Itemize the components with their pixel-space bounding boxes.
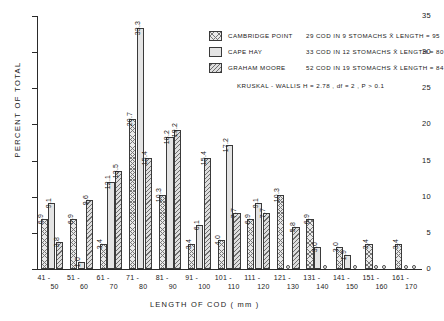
bar-value-label: 1.0 <box>74 257 81 267</box>
bar: 4.0 <box>218 240 225 269</box>
bar-value-label: 1.9 <box>340 250 347 260</box>
bar: 5.8 <box>292 227 299 269</box>
bar-value-label: 10.3 <box>155 187 162 201</box>
bar: 6.9 <box>247 219 254 269</box>
x-tick-label-high: 90 <box>169 283 195 290</box>
legend-series-name: CAMBRIDGE POINT <box>228 32 293 39</box>
bar-value-label: 6.9 <box>66 214 73 224</box>
bar-value-label: 10.3 <box>273 187 280 201</box>
bar-group: 3.412.113.5 <box>100 16 123 269</box>
bar-value-label: 7.7 <box>230 208 237 218</box>
x-tick-label-low: 51 - <box>67 274 91 281</box>
bar-value-label: 17.2 <box>222 137 229 151</box>
y-tick <box>32 16 37 17</box>
bar: 20.7 <box>129 119 136 269</box>
legend-row: CAPE HAY33 COD IN 12 STOMACHS X̄ LENGTH … <box>209 46 429 62</box>
bar-value-label: 3.4 <box>185 239 192 249</box>
y-axis-title: PERCENT OF TOTAL <box>13 68 22 158</box>
bar-value-label: 6.9 <box>37 214 44 224</box>
y-tick <box>32 233 37 234</box>
x-tick-label-high: 50 <box>51 283 77 290</box>
x-tick-label-low: 121 - <box>274 274 298 281</box>
bar-group: 6.99.13.8 <box>41 16 64 269</box>
bar-value-label: 15.4 <box>200 150 207 164</box>
y-tick <box>32 161 37 162</box>
y-tick <box>32 197 37 198</box>
x-tick-label-low: 141 - <box>333 274 357 281</box>
bar-value-label: 19.2 <box>171 123 178 137</box>
bar-value-label: 3.0 <box>332 242 339 252</box>
bar: 1.0 <box>78 262 85 269</box>
x-axis-line <box>37 269 422 270</box>
bar-value-label: 15.4 <box>141 150 148 164</box>
bar-value-label: 3.4 <box>391 239 398 249</box>
bar: 15.4 <box>145 158 152 269</box>
x-tick-label-high: 120 <box>257 283 283 290</box>
y-tick <box>32 88 37 89</box>
bar: 7.7 <box>233 213 240 269</box>
legend-series-name: GRAHAM MOORE <box>228 64 286 71</box>
bar-value-label: 4.0 <box>214 235 221 245</box>
bar: 3.4 <box>395 244 402 269</box>
y-tick <box>32 52 37 53</box>
bar-value-label: 9.6 <box>82 194 89 204</box>
bar-value-label: 9.1 <box>45 198 52 208</box>
bar: 3.4 <box>365 244 372 269</box>
legend: CAMBRIDGE POINT29 COD IN 9 STOMACHS X̄ L… <box>209 30 429 78</box>
x-tick-label-high: 70 <box>110 283 136 290</box>
x-tick-label-high: 80 <box>139 283 165 290</box>
zero-value-marker <box>286 265 290 269</box>
x-tick-label-low: 131 - <box>303 274 327 281</box>
bar-value-label: 18.2 <box>163 130 170 144</box>
x-axis-title: LENGTH OF COD ( mm ) <box>150 300 259 309</box>
legend-swatch <box>209 31 222 41</box>
y-tick <box>32 124 37 125</box>
x-tick-label-low: 151 - <box>362 274 386 281</box>
bar: 3.4 <box>100 244 107 269</box>
x-tick-label-high: 110 <box>228 283 254 290</box>
x-tick-label-high: 170 <box>405 283 431 290</box>
bar: 33.3 <box>137 28 144 269</box>
legend-swatch <box>209 47 222 57</box>
bar-value-label: 7.7 <box>259 208 266 218</box>
x-tick-label-low: 41 - <box>38 274 62 281</box>
x-tick-label-low: 161 - <box>392 274 416 281</box>
bar-value-label: 12.1 <box>104 174 111 188</box>
zero-value-marker <box>412 265 416 269</box>
bar-group: 20.733.315.4 <box>129 16 152 269</box>
bar: 3.4 <box>188 244 195 269</box>
bar: 1.9 <box>344 255 351 269</box>
legend-rows: CAMBRIDGE POINT29 COD IN 9 STOMACHS X̄ L… <box>209 30 429 78</box>
bar-group: 10.318.219.2 <box>159 16 182 269</box>
y-tick <box>32 269 37 270</box>
x-tick-label-high: 160 <box>375 283 401 290</box>
zero-value-marker <box>323 265 327 269</box>
bar-value-label: 9.1 <box>251 198 258 208</box>
bar: 6.1 <box>196 225 203 269</box>
legend-row: CAMBRIDGE POINT29 COD IN 9 STOMACHS X̄ L… <box>209 30 429 46</box>
bar: 6.9 <box>41 219 48 269</box>
bar-value-label: 33.3 <box>133 21 140 35</box>
zero-value-marker <box>382 265 386 269</box>
bar-value-label: 6.9 <box>303 214 310 224</box>
bar: 7.7 <box>263 213 270 269</box>
bar-group: 3.46.115.4 <box>188 16 211 269</box>
x-tick-label-high: 140 <box>316 283 342 290</box>
bar: 19.2 <box>174 130 181 269</box>
bar: 10.3 <box>277 195 284 269</box>
bar-value-label: 6.9 <box>244 214 251 224</box>
x-tick-label-high: 60 <box>80 283 106 290</box>
x-tick-label-high: 100 <box>198 283 224 290</box>
zero-value-marker <box>374 265 378 269</box>
legend-row: GRAHAM MOORE52 COD IN 19 STOMACHS X̄ LEN… <box>209 62 429 78</box>
bar: 3.0 <box>314 247 321 269</box>
bar-value-label: 20.7 <box>125 112 132 126</box>
bar-value-label: 3.0 <box>311 242 318 252</box>
legend-series-name: CAPE HAY <box>228 48 262 55</box>
bar: 12.1 <box>107 182 114 269</box>
bar: 3.8 <box>56 242 63 269</box>
legend-series-stats: 29 COD IN 9 STOMACHS X̄ LENGTH = 95 <box>306 32 440 39</box>
bar-value-label: 3.8 <box>52 236 59 246</box>
x-tick-label-low: 71 - <box>126 274 150 281</box>
